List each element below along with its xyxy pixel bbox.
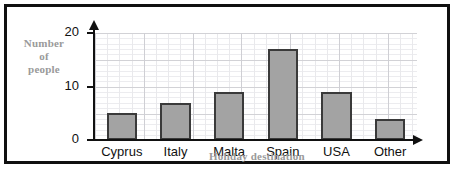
y-axis-title-line-3: people (13, 63, 75, 76)
bar-usa (321, 92, 351, 140)
x-axis-title: Holiday destination (177, 150, 337, 162)
y-tick-label-10: 10 (21, 78, 79, 93)
y-tick-label-20: 20 (21, 24, 79, 39)
x-axis-line (93, 139, 415, 141)
y-tick-0 (87, 139, 94, 141)
y-tick-10 (87, 86, 94, 88)
bar-chart: Number of people 01020 CyprusItalyMaltaS… (7, 7, 447, 161)
y-axis-arrow-icon (89, 20, 99, 30)
bar-cyprus (107, 113, 137, 140)
bar-other (375, 119, 405, 140)
y-tick-label-0: 0 (21, 131, 79, 146)
bars-layer (95, 33, 417, 140)
bar-italy (160, 103, 190, 140)
x-label-cyprus: Cyprus (95, 144, 149, 159)
x-label-other: Other (363, 144, 417, 159)
y-tick-20 (87, 32, 94, 34)
bar-spain (268, 49, 298, 140)
chart-frame: Number of people 01020 CyprusItalyMaltaS… (4, 4, 450, 164)
y-axis-title-line-2: of (13, 50, 75, 63)
y-axis-title: Number of people (13, 37, 75, 76)
bar-malta (214, 92, 244, 140)
